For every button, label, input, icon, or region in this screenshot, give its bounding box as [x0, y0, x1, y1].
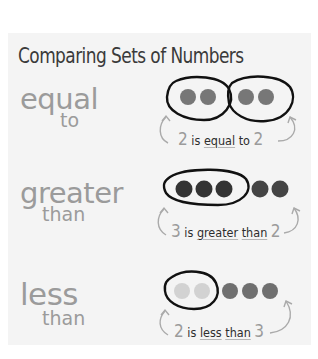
caption-right-number: 2 [254, 129, 264, 149]
caption-keyword: than [225, 325, 251, 340]
caption-right-number: 3 [254, 321, 264, 341]
set-diagrams [8, 33, 311, 345]
caption-word: is [184, 225, 193, 240]
caption-keyword: than [242, 225, 268, 240]
caption-right-number: 2 [271, 221, 281, 241]
comparison-poster: Comparing Sets of Numbers equal to great… [8, 33, 311, 345]
caption-equal: 2 is equal to 2 [178, 131, 263, 148]
caption-left-number: 2 [178, 129, 188, 149]
caption-keyword: less [200, 325, 222, 340]
caption-word: to [239, 133, 250, 148]
caption-left-number: 2 [174, 321, 184, 341]
caption-keyword: equal [204, 133, 235, 148]
caption-keyword: greater [197, 225, 238, 240]
caption-left-number: 3 [171, 221, 181, 241]
caption-greater: 3 is greater than 2 [171, 223, 281, 240]
caption-less: 2 is less than 3 [174, 323, 264, 340]
caption-word: is [187, 325, 196, 340]
caption-word: is [191, 133, 200, 148]
